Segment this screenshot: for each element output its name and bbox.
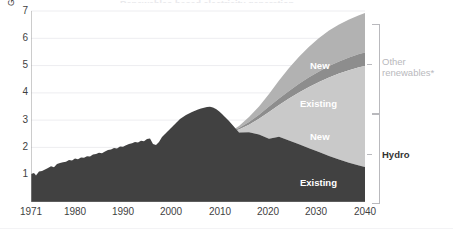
x-tick-2030: 2030 (296, 206, 336, 217)
series-label-hydro-existing: Existing (300, 178, 337, 188)
y-tick-6: 6 (12, 33, 28, 43)
bracket-other-renewables (372, 24, 380, 114)
group-label-other-line1: Other (382, 56, 406, 67)
bracket-tick-hydro (367, 154, 372, 155)
chart-title-sliver: Renewables-based electricity generation (120, 0, 320, 3)
bracket-tick-other-renewables (367, 64, 372, 65)
x-tick-2010: 2010 (200, 206, 240, 217)
y-tick-5: 5 (12, 60, 28, 70)
x-tick-2000: 2000 (151, 206, 191, 217)
chart-root: Renewables-based electricity generation … (0, 0, 453, 234)
x-tick-2020: 2020 (248, 206, 288, 217)
y-tick-2: 2 (12, 142, 28, 152)
x-tick-1990: 1990 (103, 206, 143, 217)
y-tick-7: 7 (12, 6, 28, 16)
x-tick-1971: 1971 (11, 206, 51, 217)
series-label-other-existing: Existing (300, 99, 337, 109)
series-label-hydro-new: New (310, 132, 330, 142)
group-label-hydro: Hydro (382, 149, 409, 160)
y-tick-1: 1 (12, 169, 28, 179)
y-tick-3: 3 (12, 115, 28, 125)
bracket-hydro (372, 114, 380, 204)
y-tick-4: 4 (12, 87, 28, 97)
x-tick-2040: 2040 (345, 206, 385, 217)
series-label-other-new: New (310, 61, 330, 71)
bottom-divider (0, 228, 453, 229)
group-label-other-line2: renewables* (382, 67, 434, 78)
x-tick-1980: 1980 (55, 206, 95, 217)
